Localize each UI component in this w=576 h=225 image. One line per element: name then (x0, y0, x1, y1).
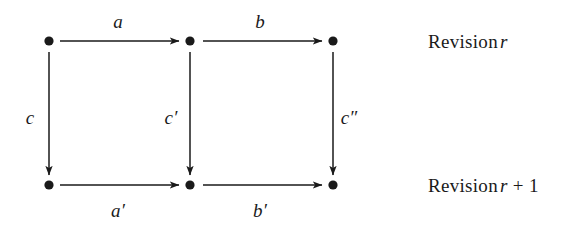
node-top-left (44, 36, 53, 45)
row-label-bottom-operator: + (512, 175, 525, 196)
node-bottom-left (44, 180, 53, 189)
edge-label-b: b (255, 12, 265, 31)
row-label-bottom-number: 1 (529, 175, 539, 196)
edge-label-c: c (26, 108, 35, 127)
node-bottom-middle (185, 180, 194, 189)
node-top-middle (185, 36, 194, 45)
commutative-diagram-figure: a b a′ b′ c c′ c″ Revisionr Revisionr + … (0, 0, 576, 225)
edge-label-a: a (113, 12, 123, 31)
row-label-bottom-variable: r (498, 175, 508, 196)
node-bottom-right (328, 180, 337, 189)
edge-label-c-double-prime: c″ (341, 108, 358, 127)
row-label-top-prefix: Revision (428, 31, 498, 52)
edge-label-c-prime: c′ (165, 108, 178, 127)
row-label-top: Revisionr (428, 32, 508, 51)
edge-label-a-prime: a′ (111, 201, 125, 220)
edge-label-b-prime: b′ (253, 201, 267, 220)
row-label-bottom: Revisionr + 1 (428, 176, 539, 195)
row-label-top-variable: r (498, 31, 508, 52)
node-top-right (328, 36, 337, 45)
row-label-bottom-prefix: Revision (428, 175, 498, 196)
